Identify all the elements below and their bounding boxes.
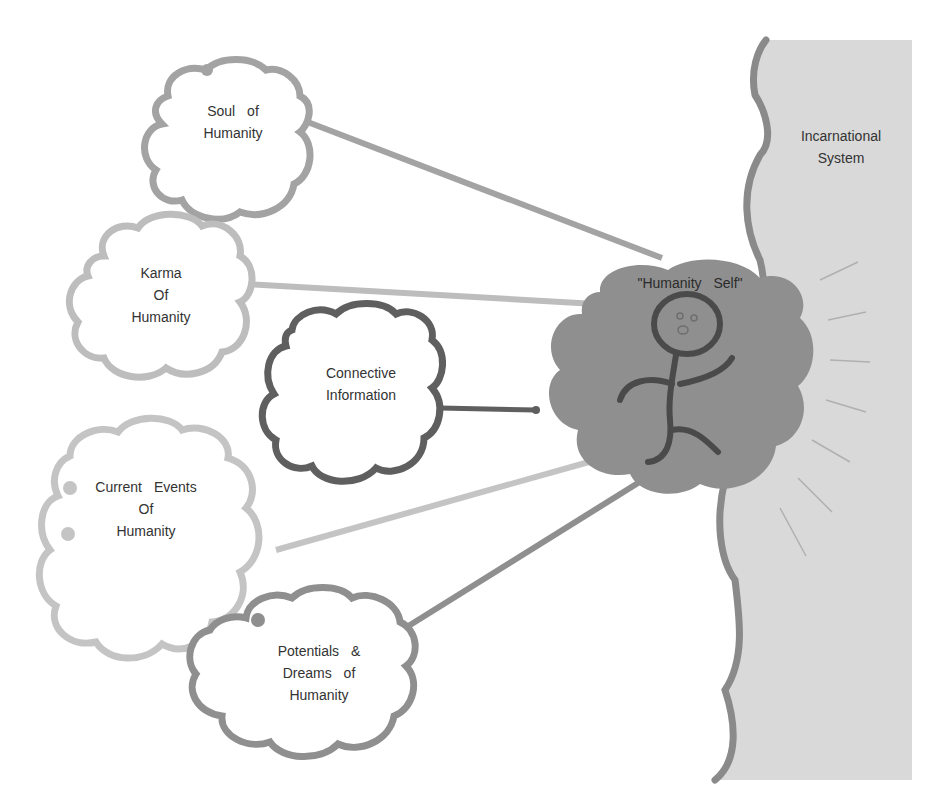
current-line-3: Humanity xyxy=(66,520,226,542)
karma-line-1: Karma xyxy=(96,262,226,284)
potentials-cloud-label: Potentials & Dreams of Humanity xyxy=(244,640,394,706)
potentials-line-2: Dreams of xyxy=(244,662,394,684)
connective-cloud-label: Connective Information xyxy=(296,362,426,406)
diagram-canvas xyxy=(0,0,946,806)
connector-soul xyxy=(292,116,662,258)
soul-line-1: Soul of xyxy=(168,100,298,122)
incarnational-line-1: Incarnational xyxy=(786,125,896,147)
potentials-line-1: Potentials & xyxy=(244,640,394,662)
karma-cloud-label: Karma Of Humanity xyxy=(96,262,226,328)
connective-line-2: Information xyxy=(296,384,426,406)
potentials-cloud-knot xyxy=(251,613,265,627)
connector-connective xyxy=(440,408,536,410)
soul-cloud-knot xyxy=(201,64,213,76)
current-line-2: Of xyxy=(66,498,226,520)
soul-line-2: Humanity xyxy=(168,122,298,144)
connective-line-1: Connective xyxy=(296,362,426,384)
connector-karma xyxy=(246,284,596,304)
connective-endpoint xyxy=(532,406,540,414)
incarnational-system-label: Incarnational System xyxy=(786,125,896,169)
current-events-cloud-label: Current Events Of Humanity xyxy=(66,476,226,542)
humanity-self-text: "Humanity Self" xyxy=(637,275,742,291)
karma-line-3: Humanity xyxy=(96,306,226,328)
potentials-line-3: Humanity xyxy=(244,684,394,706)
incarnational-line-2: System xyxy=(786,147,896,169)
karma-line-2: Of xyxy=(96,284,226,306)
soul-cloud-label: Soul of Humanity xyxy=(168,100,298,144)
current-line-1: Current Events xyxy=(66,476,226,498)
connector-potentials xyxy=(402,478,646,630)
humanity-self-label: "Humanity Self" xyxy=(600,272,780,294)
